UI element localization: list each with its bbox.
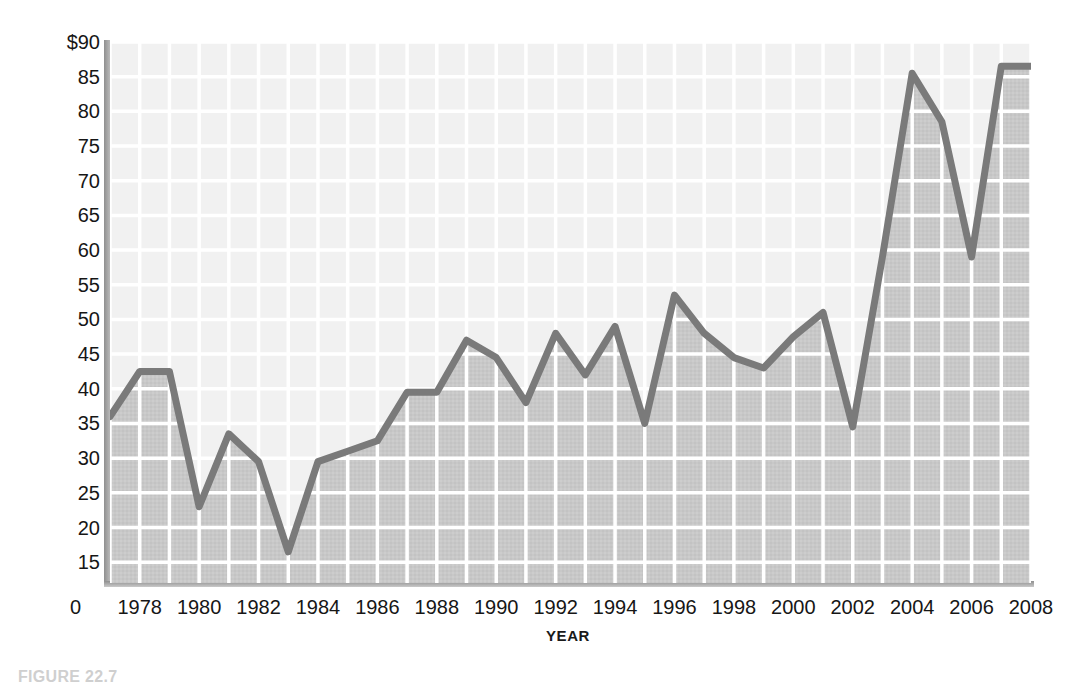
y-tick-label: 50 — [40, 309, 100, 329]
y-tick-label: 80 — [40, 101, 100, 121]
y-tick-label: 40 — [40, 379, 100, 399]
y-tick-label: 65 — [40, 205, 100, 225]
y-tick-label: 70 — [40, 171, 100, 191]
y-tick-label: 30 — [40, 448, 100, 468]
y-tick-label: 45 — [40, 344, 100, 364]
y-tick-label: $90 — [40, 32, 100, 52]
y-tick-label: 25 — [40, 483, 100, 503]
y-tick-label: 35 — [40, 413, 100, 433]
x-axis-title: YEAR — [0, 627, 1086, 644]
y-axis-tick-labels: $90858075706560555045403530252015 — [38, 0, 100, 686]
plot-area — [110, 42, 1031, 583]
y-tick-label: 75 — [40, 136, 100, 156]
y-tick-label: 85 — [40, 67, 100, 87]
figure-caption: FIGURE 22.7 — [18, 668, 117, 686]
y-tick-label: 60 — [40, 240, 100, 260]
y-tick-label: 20 — [40, 518, 100, 538]
x-axis-title-text: YEAR — [546, 627, 590, 644]
x-axis-tick-labels: 1978198019821984198619881990199219941996… — [0, 596, 1086, 622]
y-tick-label: 55 — [40, 275, 100, 295]
line-chart-svg — [110, 42, 1031, 583]
figure-net-farm-income: NET FARM INCOME (billions of dollars) $9… — [0, 0, 1086, 686]
x-tick-label: 2008 — [991, 596, 1071, 618]
y-tick-label: 15 — [40, 552, 100, 572]
